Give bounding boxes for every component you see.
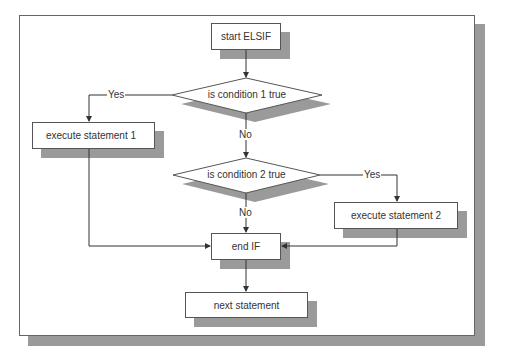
condition-1-diamond: is condition 1 true <box>172 89 322 100</box>
cond1-no-label: No <box>238 129 253 140</box>
cond2-no-label: No <box>238 207 253 218</box>
execute-statement-2-box: execute statement 2 <box>334 202 458 229</box>
condition-2-diamond: is condition 2 true <box>173 169 320 180</box>
end-if-box: end IF <box>211 233 281 260</box>
start-elsif-box: start ELSIF <box>211 23 281 50</box>
cond1-yes-label: Yes <box>107 89 125 100</box>
cond2-yes-label: Yes <box>363 169 381 180</box>
next-statement-box: next statement <box>185 292 308 318</box>
execute-statement-1-box: execute statement 1 <box>32 122 155 149</box>
